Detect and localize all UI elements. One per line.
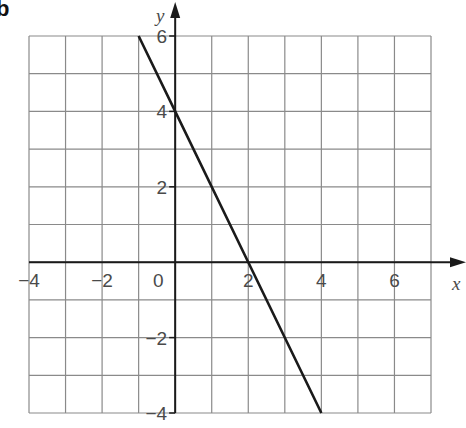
x-tick-label: 2 — [243, 270, 254, 291]
y-tick-label: −4 — [146, 403, 168, 424]
y-axis-arrow-icon — [170, 2, 180, 18]
y-axis-label: y — [154, 5, 165, 26]
x-axis-label: x — [451, 273, 461, 294]
x-tick-label: 4 — [316, 270, 327, 291]
x-axis-arrow-icon — [450, 257, 466, 267]
x-tick-label: 0 — [153, 270, 164, 291]
x-tick-label: −2 — [91, 270, 113, 291]
y-tick-label: 4 — [157, 101, 168, 122]
panel-label: b — [0, 0, 9, 21]
y-tick-label: 2 — [157, 177, 168, 198]
x-tick-label: 6 — [389, 270, 400, 291]
y-tick-label: −2 — [146, 328, 168, 349]
coordinate-plane: −4−20246−4−2246 x y b — [0, 0, 466, 428]
x-tick-label: −4 — [18, 270, 40, 291]
axes — [29, 2, 466, 413]
y-tick-label: 6 — [157, 26, 168, 47]
